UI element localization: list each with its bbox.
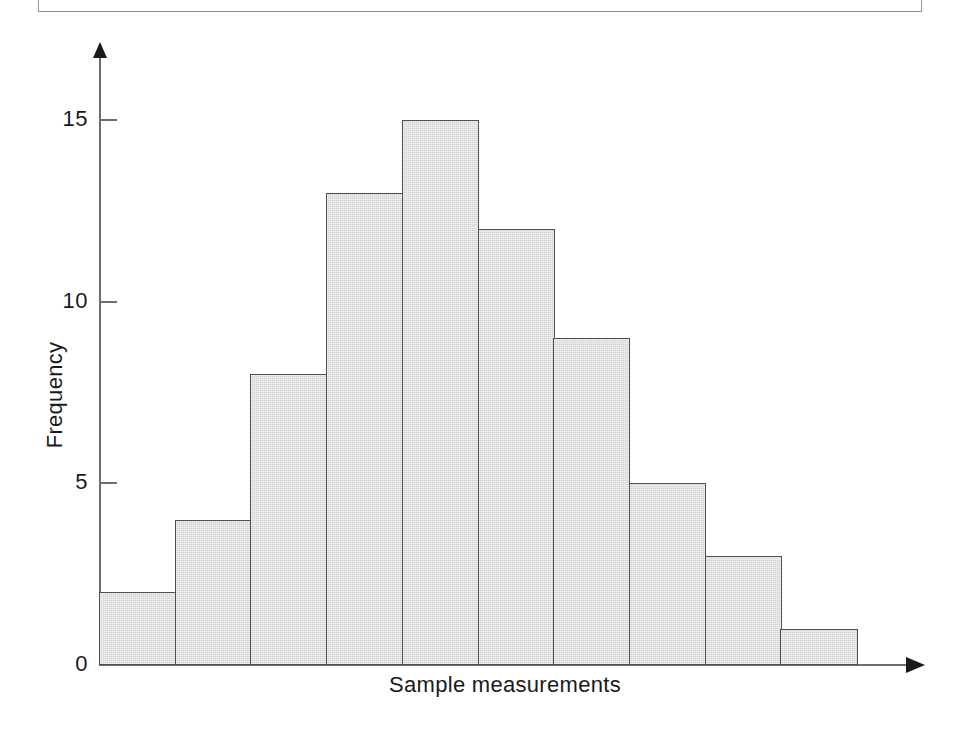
y-axis-tick-label: 15	[40, 108, 88, 130]
y-axis-tick-label: 10	[40, 290, 88, 312]
histogram-bar	[402, 120, 479, 665]
y-axis-tick-label-text: 15	[50, 108, 88, 130]
histogram-bar	[99, 592, 176, 665]
histogram-bar	[250, 374, 327, 665]
y-axis-title: Frequency	[44, 320, 66, 470]
y-axis-tick-label: 5	[40, 471, 88, 493]
histogram-bar	[780, 629, 857, 665]
y-axis-tick-label-text: 5	[50, 471, 88, 493]
histogram-bar	[553, 338, 630, 665]
histogram-bar	[629, 483, 706, 665]
histogram-bars	[99, 0, 899, 665]
histogram-bar	[326, 193, 403, 665]
histogram-bar	[705, 556, 782, 665]
y-axis-tick-label-text: 0	[50, 653, 88, 675]
histogram-bar	[478, 229, 555, 665]
y-axis-tick-label: 0	[40, 653, 88, 675]
x-axis-title: Sample measurements	[99, 672, 911, 698]
histogram-chart: 051015 Frequency Sample measurements	[0, 0, 955, 729]
y-axis-tick-label-text: 10	[50, 290, 88, 312]
right-arrow-icon	[906, 657, 925, 673]
histogram-bar	[175, 520, 252, 665]
